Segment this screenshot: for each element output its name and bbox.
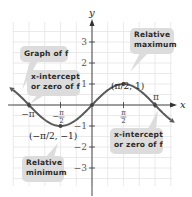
svg-text:π: π	[153, 92, 159, 102]
y-axis-label: y	[88, 7, 95, 18]
svg-text:π: π	[121, 109, 126, 117]
x-tick-label: −π	[21, 109, 35, 119]
x-tick-label: π2	[121, 109, 127, 125]
x-tick-label: π	[153, 92, 159, 102]
callout-x-intercept-left: x-intercept or zero of f	[27, 70, 80, 96]
y-tick-label: 2	[81, 58, 87, 68]
y-axis-arrow-icon	[90, 19, 95, 26]
key-point-dot	[90, 103, 94, 107]
y-tick-label: −1	[74, 121, 87, 131]
y-tick-label: 3	[81, 37, 87, 47]
svg-text:−: −	[52, 112, 59, 121]
svg-text:π: π	[59, 109, 64, 117]
callout-x-intercept-right: x-intercept or zero of f	[110, 128, 163, 154]
callout-tail-relative-minimum	[46, 143, 58, 157]
y-tick-label: 1	[81, 79, 87, 89]
svg-text:2: 2	[121, 117, 125, 125]
callout-relative-maximum: Relative maximum	[130, 28, 174, 54]
x-axis-arrow-icon	[170, 103, 177, 108]
key-point-dot	[153, 103, 157, 107]
svg-text:2: 2	[59, 117, 63, 125]
y-tick-label: −3	[74, 163, 88, 173]
svg-text:−π: −π	[21, 109, 35, 119]
max-point-label: (π/2, 1)	[111, 81, 144, 91]
y-tick-label: −2	[74, 142, 87, 152]
x-tick-label: −π2	[52, 109, 64, 125]
min-point-label: (−π/2, −1)	[29, 131, 77, 141]
callout-relative-minimum: Relative minimum	[22, 156, 64, 182]
callout-graph-of-f: Graph of f	[20, 46, 68, 62]
sine-graph-figure: xy 321−1−2−3−π−π2π2π Graph of f x-interc…	[0, 0, 192, 197]
x-axis-label: x	[180, 99, 186, 110]
